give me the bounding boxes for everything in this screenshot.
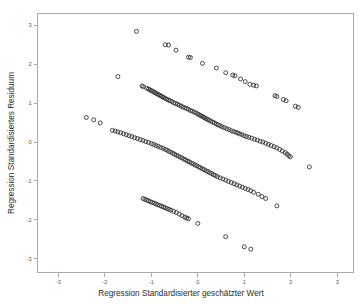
x-tick-label: -3 [56,279,61,285]
x-tick-label: -1 [149,279,154,285]
y-tick-label: 1 [28,100,31,106]
y-axis-title: Regression Standardisiertes Residuum [7,72,16,214]
y-tick-label: -2 [27,217,32,223]
y-tick-label: -1 [27,178,32,184]
x-tick-label: 3 [336,279,339,285]
x-axis-title: Regression Standardisierter geschätzter … [98,289,264,298]
y-tick-label: 0 [28,139,31,145]
x-tick-label: 1 [243,279,246,285]
x-tick-label: 0 [196,279,199,285]
y-tick-label: 2 [28,61,31,67]
residual-scatter-plot: -3-2-10123 -3-2-10123 Regression Standar… [0,0,362,304]
plot-background [0,0,362,304]
x-tick-label: 2 [289,279,292,285]
scatterplot-container: -3-2-10123 -3-2-10123 Regression Standar… [0,0,362,304]
y-tick-label: -3 [27,256,32,262]
x-tick-label: -2 [102,279,107,285]
y-tick-label: 3 [28,22,31,28]
